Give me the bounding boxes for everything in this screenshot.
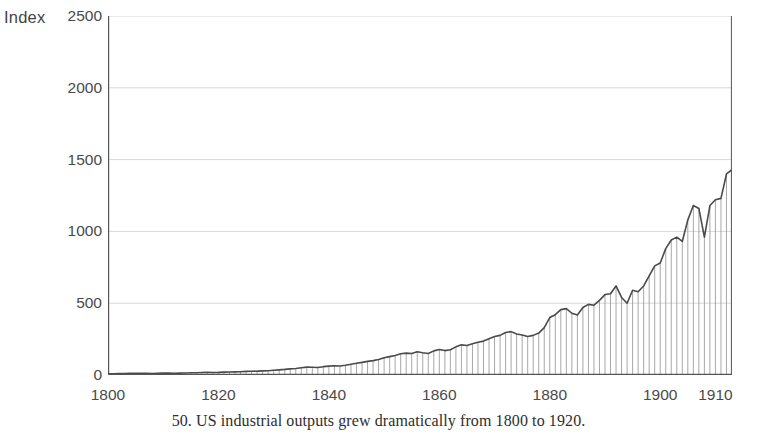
figure-caption: 50. US industrial outputs grew dramatica…: [0, 412, 757, 430]
industrial-output-chart: [108, 16, 732, 375]
x-axis-tick-label: 1800: [78, 386, 138, 404]
y-axis-title: Index: [4, 8, 45, 27]
gridlines-group: [108, 16, 732, 303]
y-axis-tick-label: 2000: [44, 79, 102, 97]
x-axis-tick-label: 1880: [520, 386, 580, 404]
plot-area: [108, 16, 732, 375]
x-axis-tick-label: 1840: [299, 386, 359, 404]
x-axis-tick-label: 1910: [685, 386, 745, 404]
y-axis-tick-label: 500: [44, 294, 102, 312]
y-axis-tick-label: 0: [44, 366, 102, 384]
y-axis-tick-label: 1000: [44, 222, 102, 240]
y-axis-tick-label: 2500: [44, 7, 102, 25]
figure-container: Index 05001000150020002500 1800182018401…: [0, 0, 757, 437]
x-axis-tick-label: 1900: [630, 386, 690, 404]
x-axis-tick-label: 1820: [188, 386, 248, 404]
stem-lines-group: [108, 170, 732, 375]
x-axis-tick-label: 1860: [409, 386, 469, 404]
y-axis-tick-label: 1500: [44, 151, 102, 169]
